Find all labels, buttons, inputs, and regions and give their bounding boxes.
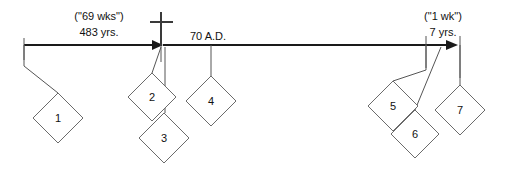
- diamond-label-5: 5: [390, 100, 396, 112]
- diamond-label-6: 6: [412, 128, 418, 140]
- leader-to-diamond-5: [393, 45, 426, 81]
- diamond-label-3: 3: [161, 132, 167, 144]
- label-right-span-bottom: 7 yrs.: [430, 26, 457, 38]
- diagram-canvas: ("69 wks") 483 yrs. 70 A.D. ("1 wk") 7 y…: [0, 0, 507, 169]
- leader-to-diamond-1: [24, 45, 58, 93]
- diamond-label-2: 2: [149, 91, 155, 103]
- span-labels: ("69 wks") 483 yrs. 70 A.D. ("1 wk") 7 y…: [74, 10, 462, 42]
- label-left-span-top: ("69 wks"): [74, 10, 123, 22]
- leader-to-diamond-2: [152, 47, 161, 73]
- timeline-arrowhead-right: [446, 40, 458, 50]
- timeline-axis: [24, 40, 458, 50]
- diamond-node-4[interactable]: 4: [186, 76, 236, 126]
- diamond-label-7: 7: [457, 104, 463, 116]
- label-middle-event: 70 A.D.: [190, 30, 226, 42]
- diamond-node-3[interactable]: 3: [139, 113, 189, 163]
- diamond-label-4: 4: [208, 95, 214, 107]
- leader-to-diamond-6: [415, 47, 441, 110]
- label-right-span-top: ("1 wk"): [424, 10, 462, 22]
- diamond-group: 1 2 3 4 5 6: [33, 73, 485, 163]
- diamond-label-1: 1: [55, 112, 61, 124]
- diamond-node-1[interactable]: 1: [33, 93, 83, 143]
- diamond-node-7[interactable]: 7: [435, 85, 485, 135]
- diamond-node-2[interactable]: 2: [128, 73, 176, 121]
- timeline-diagram: ("69 wks") 483 yrs. 70 A.D. ("1 wk") 7 y…: [0, 0, 507, 169]
- label-left-span-bottom: 483 yrs.: [79, 26, 118, 38]
